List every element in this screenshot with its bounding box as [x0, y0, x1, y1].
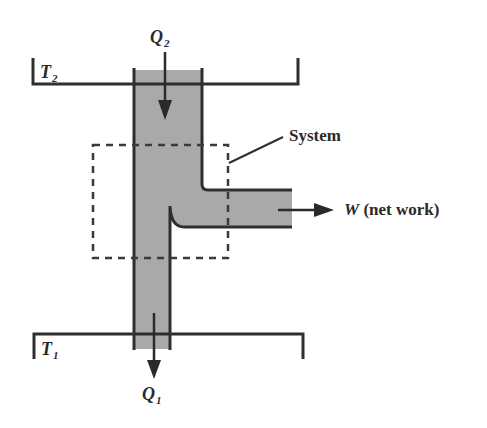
- cold-reservoir-symbol: T: [41, 339, 52, 359]
- hot-reservoir-symbol: T: [40, 62, 51, 82]
- hot-reservoir-subscript: 2: [52, 72, 58, 84]
- hot-reservoir-label: T2: [40, 63, 58, 81]
- work-symbol: W: [344, 200, 359, 219]
- cold-reservoir-subscript: 1: [53, 349, 59, 361]
- cold-reservoir-label: T1: [41, 340, 59, 358]
- heat-in-label: Q2: [150, 28, 170, 46]
- heat-engine-diagram: T2 T1 Q2 Q1 System W (net work): [0, 0, 487, 428]
- work-text: (net work): [359, 200, 439, 219]
- heat-in-subscript: 2: [164, 37, 170, 49]
- work-label: W (net work): [344, 201, 439, 218]
- system-label: System: [289, 127, 341, 144]
- heat-out-symbol: Q: [142, 384, 155, 404]
- system-leader-line: [229, 137, 283, 163]
- heat-out-label: Q1: [142, 385, 162, 403]
- heat-out-subscript: 1: [156, 394, 162, 406]
- heat-in-symbol: Q: [150, 27, 163, 47]
- working-fluid-fill: [134, 70, 292, 349]
